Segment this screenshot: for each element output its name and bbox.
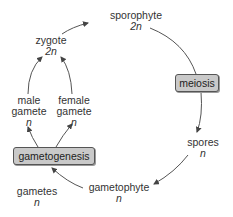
spores-ploidy: n bbox=[178, 148, 228, 159]
gametophyte-ploidy: n bbox=[82, 193, 156, 204]
process-gametogenesis: gametogenesis bbox=[13, 147, 95, 165]
node-sporophyte: sporophyte 2n bbox=[96, 10, 176, 32]
line-sporophyte-to-meiosis bbox=[150, 28, 196, 74]
node-male-gamete: male gamete n bbox=[8, 95, 50, 128]
arrow-spores-to-gametophyte bbox=[154, 155, 188, 184]
zygote-ploidy: 2n bbox=[30, 46, 72, 57]
node-female-gamete: female gamete n bbox=[52, 95, 96, 128]
arrow-zygote-to-sporophyte bbox=[62, 23, 88, 34]
arrow-gametogenesis-to-male bbox=[28, 127, 38, 147]
female-gamete-ploidy: n bbox=[52, 117, 96, 128]
gametes-ploidy: n bbox=[12, 197, 62, 208]
arrow-meiosis-to-spores bbox=[197, 92, 202, 132]
sporophyte-ploidy: 2n bbox=[96, 21, 176, 32]
node-zygote: zygote 2n bbox=[30, 35, 72, 57]
gametogenesis-label: gametogenesis bbox=[18, 150, 89, 162]
male-gamete-ploidy: n bbox=[8, 117, 50, 128]
arrow-male-to-zygote bbox=[28, 57, 42, 94]
node-spores: spores n bbox=[178, 137, 228, 159]
meiosis-label: meiosis bbox=[179, 77, 215, 89]
node-gametophyte: gametophyte n bbox=[82, 182, 156, 204]
arrow-female-to-zygote bbox=[61, 57, 72, 94]
process-meiosis: meiosis bbox=[175, 74, 219, 92]
node-gametes: gametes n bbox=[12, 186, 62, 208]
